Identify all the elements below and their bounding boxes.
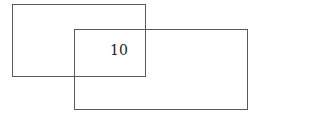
rectangle-right (74, 29, 248, 110)
intersection-label: 10 (110, 42, 128, 58)
